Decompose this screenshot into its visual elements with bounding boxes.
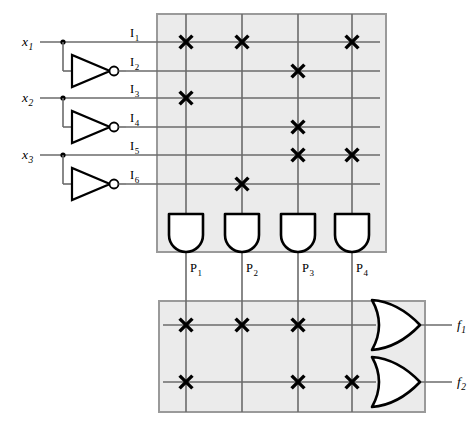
inverter-x2 [72,111,110,143]
input-line-label-I1-sub: 1 [135,33,140,43]
input-front-end [40,39,126,200]
product-label-P3: P3 [302,261,314,278]
input-line-label-I5-sub: 5 [135,146,140,156]
product-label-P1: P1 [190,261,202,278]
inverter-bubble-x2 [110,123,119,132]
input-line-label-I5: I5 [130,139,140,156]
and-gate-P2 [225,214,259,252]
input-label-x3: x3 [21,147,34,165]
input-line-label-I4: I4 [130,111,140,128]
product-label-P4: P4 [356,261,368,278]
output-label-f1-sub: 1 [461,325,466,335]
output-label-f2-sub: 2 [461,382,466,392]
inverter-bubble-x3 [110,180,119,189]
output-label-f1: f1 [457,317,466,335]
product-label-P1-sub: 1 [197,268,202,278]
input-label-x3-sub: 3 [28,155,34,165]
output-label-f2: f2 [457,374,466,392]
input-line-label-I3: I3 [130,82,140,99]
input-label-x1-sub: 1 [29,42,34,52]
inverter-x3 [72,168,110,200]
product-label-P2: P2 [246,261,258,278]
product-label-P2-sub: 2 [253,268,258,278]
inverter-x1 [72,55,110,87]
input-line-label-I6: I6 [130,168,140,185]
pla-diagram: x1x2x3I1I2I3I4I5I6P1P2P3P4f1f2 [0,0,475,427]
input-line-label-I3-sub: 3 [135,89,140,99]
input-line-label-I2-sub: 2 [135,62,140,72]
input-line-label-I6-sub: 6 [135,175,140,185]
and-gate-P1 [169,214,203,252]
inverter-bubble-x1 [110,67,119,76]
and-gate-P3 [281,214,315,252]
input-line-label-I4-sub: 4 [135,118,140,128]
input-label-x2: x2 [21,90,34,108]
and-gate-P4 [335,214,369,252]
input-line-label-I1: I1 [130,26,139,43]
product-label-P3-sub: 3 [309,268,314,278]
input-label-x2-sub: 2 [29,98,34,108]
input-label-x1: x1 [21,34,33,52]
input-line-label-I2: I2 [130,55,139,72]
product-label-P4-sub: 4 [363,268,368,278]
pla-diagram-stage: x1x2x3I1I2I3I4I5I6P1P2P3P4f1f2 [0,0,475,427]
